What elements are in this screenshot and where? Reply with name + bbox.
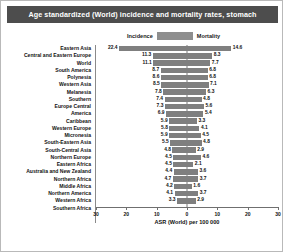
category-label: Europe Central [1, 103, 93, 110]
category-label-text: Polynesia [67, 75, 91, 80]
mortality-bar [187, 89, 206, 94]
category-label-text: Melanesia [67, 90, 91, 95]
page-title: Age standardized (World) incidence and m… [28, 10, 256, 19]
plot-area: 22.414.611.38.311.17.78.76.88.66.88.57.1… [96, 45, 278, 223]
x-axis-tick [248, 207, 249, 210]
category-label-text: Eastern Asia [60, 46, 91, 51]
incidence-bar [153, 53, 187, 58]
category-label-text: Northern Europe [51, 155, 91, 160]
incidence-value: 11.1 [143, 61, 152, 66]
incidence-cell: 4.4 [96, 169, 187, 174]
incidence-value: 8.7 [152, 68, 159, 73]
x-axis-tick-labels: 3020100102030 [96, 211, 278, 219]
incidence-value: 11.3 [142, 53, 151, 58]
incidence-value: 7.8 [155, 90, 162, 95]
incidence-cell: 4.7 [96, 176, 187, 181]
category-label: Northern Africa [1, 176, 93, 183]
mortality-bar [187, 133, 201, 138]
table-row: 11.17.7 [96, 60, 278, 67]
mortality-cell: 2.9 [187, 198, 278, 203]
table-row: 4.52.1 [96, 161, 278, 168]
bar-rows: 22.414.611.38.311.17.78.76.88.66.88.57.1… [96, 45, 278, 207]
x-axis-tick-label: 20 [124, 211, 130, 217]
category-label: Western Asia [1, 81, 93, 88]
incidence-cell: 5.8 [96, 126, 187, 131]
incidence-value: 5.9 [161, 119, 168, 124]
mortality-cell: 3.3 [187, 118, 278, 123]
mortality-cell: 3.7 [187, 191, 278, 196]
mortality-value: 7.7 [212, 61, 219, 66]
incidence-bar [173, 155, 187, 160]
incidence-value: 4.5 [165, 162, 172, 167]
mortality-cell: 4.8 [187, 97, 278, 102]
category-label: Southern Africa [1, 205, 93, 212]
table-row: 4.82.9 [96, 147, 278, 154]
mortality-bar [187, 46, 231, 51]
category-label: World [1, 60, 93, 67]
mortality-cell: 4.8 [187, 140, 278, 145]
incidence-bar [169, 126, 187, 131]
incidence-cell: 22.4 [96, 46, 187, 51]
incidence-cell: 5.9 [96, 133, 187, 138]
incidence-value: 22.4 [108, 46, 118, 51]
incidence-value: 7.4 [156, 97, 163, 102]
table-row: 8.76.8 [96, 67, 278, 74]
category-label: Eastern Africa [1, 161, 93, 168]
mortality-bar [187, 140, 202, 145]
mortality-value: 6.8 [209, 68, 216, 73]
mortality-bar [187, 104, 204, 109]
category-label: Polynesia [1, 74, 93, 81]
mortality-cell: 3.7 [187, 176, 278, 181]
category-label: Western Europe [1, 125, 93, 132]
x-axis-tick [96, 207, 97, 210]
incidence-cell: 4.2 [96, 184, 187, 189]
category-label-text: Europe Central [54, 104, 91, 109]
mortality-value: 6.8 [209, 75, 216, 80]
x-axis-tick [157, 207, 158, 210]
mortality-cell: 6.8 [187, 75, 278, 80]
incidence-bar [175, 191, 187, 196]
mortality-cell: 7.7 [187, 60, 278, 65]
x-axis-tick-label: 20 [245, 211, 251, 217]
table-row: 7.35.6 [96, 103, 278, 110]
x-axis-tick [278, 207, 279, 210]
category-label-text: World [77, 61, 91, 66]
category-label: Micronesia [1, 132, 93, 139]
mortality-bar [187, 68, 208, 73]
x-axis-tick-label: 10 [215, 211, 221, 217]
category-axis-labels: Eastern AsiaCentral and Eastern EuropeWo… [1, 45, 93, 207]
table-row: 7.86.3 [96, 89, 278, 96]
mortality-value: 7.1 [210, 82, 217, 87]
category-label: South America [1, 67, 93, 74]
incidence-value: 5.8 [161, 126, 168, 131]
incidence-cell: 7.4 [96, 97, 187, 102]
incidence-bar [163, 89, 187, 94]
category-label: Australia and New Zealand [1, 168, 93, 175]
mortality-cell: 4.5 [187, 133, 278, 138]
table-row: 4.73.7 [96, 176, 278, 183]
incidence-cell: 6.9 [96, 111, 187, 116]
incidence-cell: 4.1 [96, 191, 187, 196]
table-row: 3.32.9 [96, 197, 278, 204]
mortality-bar [187, 97, 202, 102]
incidence-value: 8.5 [153, 82, 160, 87]
table-row: 5.94.5 [96, 132, 278, 139]
incidence-bar [174, 184, 187, 189]
incidence-value: 3.3 [169, 198, 176, 203]
category-label: America [1, 110, 93, 117]
incidence-value: 4.7 [164, 177, 171, 182]
mortality-cell: 8.3 [187, 53, 278, 58]
mortality-bar [187, 82, 209, 87]
table-row: 4.21.6 [96, 183, 278, 190]
mortality-cell: 6.8 [187, 68, 278, 73]
category-label-text: Western Africa [55, 198, 91, 203]
category-label-text: Northern America [48, 191, 91, 196]
incidence-bar [169, 133, 187, 138]
mortality-bar [187, 155, 201, 160]
mortality-value: 4.8 [203, 97, 210, 102]
mortality-value: 2.1 [195, 162, 202, 167]
mortality-value: 8.3 [214, 53, 221, 58]
incidence-cell: 7.3 [96, 104, 187, 109]
mortality-value: 3.7 [200, 177, 207, 182]
incidence-value: 7.3 [157, 104, 164, 109]
